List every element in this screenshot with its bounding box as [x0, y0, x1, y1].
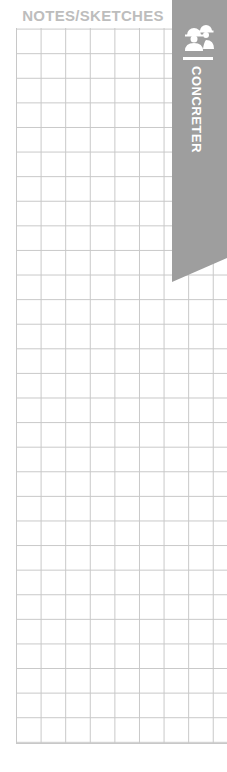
trade-tab: CONCRETER [172, 0, 227, 282]
tab-divider [183, 57, 213, 60]
page-title: NOTES/SKETCHES [14, 4, 172, 28]
tab-label: CONCRETER [189, 66, 204, 153]
workers-icon [183, 22, 217, 54]
